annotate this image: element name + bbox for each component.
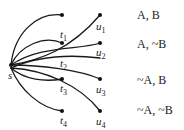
node-u3 bbox=[98, 77, 102, 81]
label-t3: t3 bbox=[60, 83, 67, 97]
row-label-2: A, ~B bbox=[137, 38, 166, 50]
edge-s-t4 bbox=[11, 68, 62, 111]
node-t4 bbox=[60, 109, 64, 113]
row-label-4: ~A, ~B bbox=[137, 104, 173, 116]
label-u4-sub: 4 bbox=[102, 121, 106, 130]
edge-s-u3 bbox=[11, 65, 100, 79]
label-t2: t2 bbox=[60, 58, 67, 72]
label-u4: u4 bbox=[96, 116, 106, 130]
label-s: s bbox=[8, 70, 12, 81]
row-label-3: ~A, B bbox=[137, 74, 166, 86]
node-t3 bbox=[60, 77, 64, 81]
label-t1: t1 bbox=[60, 29, 67, 43]
row-label-1: A, B bbox=[137, 9, 160, 21]
node-u2 bbox=[98, 41, 102, 45]
node-s bbox=[9, 63, 13, 67]
label-t4: t4 bbox=[60, 115, 67, 129]
label-u1: u1 bbox=[96, 21, 106, 35]
node-u1 bbox=[98, 13, 102, 17]
label-t4-sub: 4 bbox=[63, 120, 67, 129]
node-t0 bbox=[60, 13, 64, 17]
label-t1-sub: 1 bbox=[63, 34, 67, 43]
label-t2-sub: 2 bbox=[63, 63, 67, 72]
label-t3-sub: 3 bbox=[63, 88, 67, 97]
node-u4 bbox=[98, 109, 102, 113]
label-u3-sub: 3 bbox=[102, 89, 106, 98]
label-u3: u3 bbox=[96, 84, 106, 98]
edge-s-t1 bbox=[11, 40, 62, 65]
label-u2: u2 bbox=[96, 47, 106, 61]
label-u1-sub: 1 bbox=[102, 26, 106, 35]
label-u2-sub: 2 bbox=[102, 52, 106, 61]
